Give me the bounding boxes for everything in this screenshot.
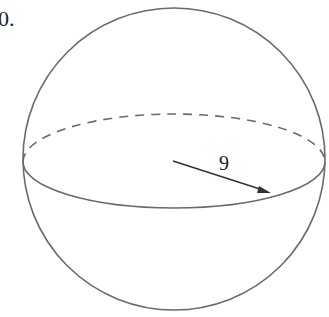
equator-back-dashed: [23, 114, 325, 162]
sphere-diagram: 0. 9: [0, 0, 329, 317]
radius-line: [173, 161, 263, 190]
problem-number: 0.: [0, 6, 15, 31]
arrow-head-icon: [257, 186, 271, 193]
equator-front: [23, 162, 325, 208]
radius-label: 9: [219, 152, 229, 174]
sphere-outline: [23, 8, 325, 310]
